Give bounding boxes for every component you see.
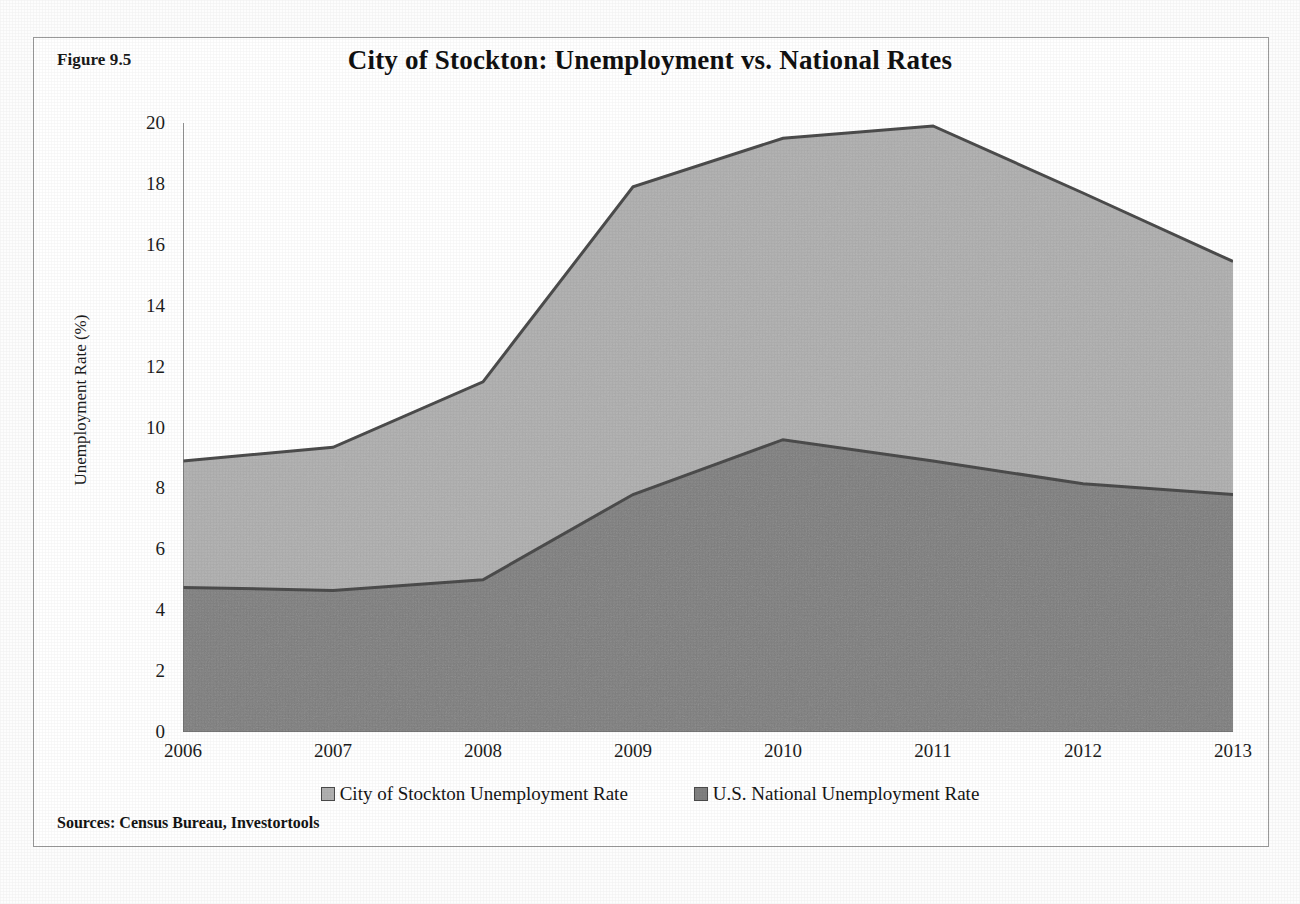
x-axis-tick-label: 2008 bbox=[423, 740, 543, 762]
x-axis-tick-label: 2010 bbox=[723, 740, 843, 762]
area-chart-svg bbox=[183, 123, 1233, 732]
y-axis-tick-label: 8 bbox=[105, 478, 165, 497]
x-axis-tick-label: 2013 bbox=[1173, 740, 1293, 762]
x-axis-tick-label: 2011 bbox=[873, 740, 993, 762]
legend-item[interactable]: U.S. National Unemployment Rate bbox=[694, 783, 979, 805]
legend-item[interactable]: City of Stockton Unemployment Rate bbox=[321, 783, 628, 805]
chart-legend: City of Stockton Unemployment RateU.S. N… bbox=[0, 783, 1300, 805]
sources-note: Sources: Census Bureau, Investortools bbox=[57, 814, 320, 832]
x-axis-tick-label: 2007 bbox=[273, 740, 393, 762]
legend-swatch-icon bbox=[694, 787, 708, 801]
y-axis-tick-label: 0 bbox=[105, 722, 165, 741]
x-axis-tick-label: 2009 bbox=[573, 740, 693, 762]
chart-title: City of Stockton: Unemployment vs. Natio… bbox=[0, 45, 1300, 76]
y-axis-tick-label: 14 bbox=[105, 296, 165, 315]
y-axis-tick-label: 6 bbox=[105, 539, 165, 558]
y-axis-tick-label: 20 bbox=[105, 113, 165, 132]
legend-label: City of Stockton Unemployment Rate bbox=[340, 783, 628, 805]
x-axis-tick-label: 2006 bbox=[123, 740, 243, 762]
plot-area bbox=[183, 123, 1233, 732]
legend-label: U.S. National Unemployment Rate bbox=[713, 783, 979, 805]
y-axis-tick-label: 12 bbox=[105, 357, 165, 376]
y-axis-tick-label: 2 bbox=[105, 661, 165, 680]
y-axis-title: Unemployment Rate (%) bbox=[71, 270, 91, 530]
y-axis-tick-label: 18 bbox=[105, 174, 165, 193]
legend-swatch-icon bbox=[321, 787, 335, 801]
figure-page: Figure 9.5 City of Stockton: Unemploymen… bbox=[0, 0, 1300, 904]
x-axis-tick-label: 2012 bbox=[1023, 740, 1143, 762]
y-axis-tick-label: 4 bbox=[105, 600, 165, 619]
y-axis-tick-label: 16 bbox=[105, 235, 165, 254]
y-axis-tick-label: 10 bbox=[105, 418, 165, 437]
